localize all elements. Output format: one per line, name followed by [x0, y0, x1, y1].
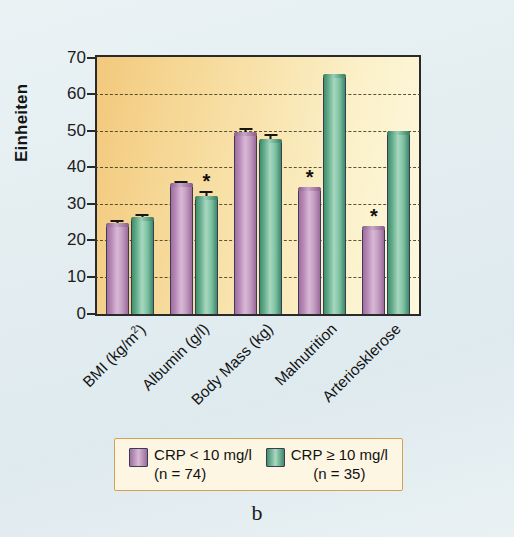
bar-group: *	[354, 58, 418, 314]
y-tick-label: 50	[67, 121, 86, 141]
bar-group: *	[162, 58, 226, 314]
bar-crp-high	[387, 131, 410, 314]
error-bar	[264, 134, 277, 139]
legend-label-crp-low: CRP < 10 mg/l (n = 74)	[154, 446, 252, 483]
bar-cap	[259, 139, 282, 143]
error-bar-stem	[116, 220, 118, 223]
chart-legend: CRP < 10 mg/l (n = 74) CRP ≥ 10 mg/l (n …	[114, 438, 403, 491]
y-tick-mark	[87, 57, 95, 59]
error-bar	[239, 128, 252, 133]
y-tick-label: 60	[67, 84, 86, 104]
legend-label-text: CRP ≥ 10 mg/l	[291, 446, 388, 463]
y-tick-label: 20	[67, 230, 86, 250]
figure-caption: b	[0, 500, 514, 526]
y-tick-mark	[87, 239, 95, 241]
bar-cap	[131, 217, 154, 221]
error-bar	[175, 181, 188, 184]
figure-panel-b: Einheiten 010203040506070 *** BMI (kg/m2…	[0, 0, 514, 537]
bar-cap	[234, 132, 257, 136]
error-bar-stem	[245, 128, 247, 133]
error-bar-stem	[141, 214, 143, 217]
bar-crp-high	[323, 74, 346, 313]
legend-label-crp-high: CRP ≥ 10 mg/l (n = 35)	[291, 446, 388, 483]
bar-cap	[170, 183, 193, 187]
bar-crp-low: *	[298, 187, 321, 314]
error-bar	[136, 214, 149, 217]
legend-swatch-purple-icon	[129, 448, 148, 467]
legend-label-text: CRP < 10 mg/l	[154, 446, 252, 463]
bar-cap	[387, 131, 410, 135]
y-tick-mark	[87, 276, 95, 278]
error-bar-stem	[180, 181, 182, 184]
y-tick-label: 70	[67, 48, 86, 68]
y-tick-mark	[87, 93, 95, 95]
bar-group	[226, 58, 290, 314]
bar-cap	[323, 74, 346, 78]
plot-area: 010203040506070 ***	[95, 55, 421, 316]
y-tick-label: 30	[67, 194, 86, 214]
legend-label-n: (n = 74)	[154, 465, 252, 483]
significance-asterisk: *	[202, 171, 210, 191]
bar-crp-low	[170, 183, 193, 313]
significance-asterisk: *	[370, 206, 378, 226]
y-tick-label: 10	[67, 267, 86, 287]
bar-cap	[195, 196, 218, 200]
bar-crp-high	[259, 139, 282, 313]
y-tick-mark	[87, 166, 95, 168]
bar-crp-high: *	[195, 196, 218, 313]
y-tick-mark	[87, 313, 95, 315]
bar-crp-low	[106, 223, 129, 313]
bar-crp-low	[234, 132, 257, 313]
legend-swatch-green-icon	[266, 448, 285, 467]
significance-asterisk: *	[306, 167, 314, 187]
y-tick-mark	[87, 130, 95, 132]
legend-label-n: (n = 35)	[291, 465, 388, 483]
bar-group: *	[290, 58, 354, 314]
legend-entry-crp-low: CRP < 10 mg/l (n = 74)	[129, 446, 252, 483]
bar-cap	[106, 223, 129, 227]
y-axis-title: Einheiten	[12, 84, 32, 162]
error-bar	[111, 220, 124, 223]
bar-crp-high	[131, 217, 154, 314]
y-tick-label: 40	[67, 157, 86, 177]
x-axis-label: Malnutrition	[272, 320, 341, 389]
y-tick-mark	[87, 203, 95, 205]
y-tick-label: 0	[77, 304, 86, 324]
bar-crp-low: *	[362, 226, 385, 313]
legend-entry-crp-high: CRP ≥ 10 mg/l (n = 35)	[266, 446, 388, 483]
error-bar-stem	[270, 134, 272, 139]
bar-groups: ***	[98, 58, 419, 314]
bar-group	[98, 58, 162, 314]
